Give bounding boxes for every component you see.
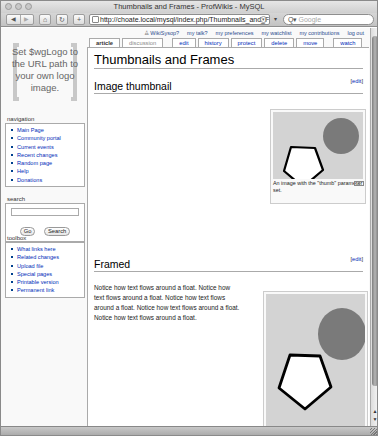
pentagon-shape — [281, 144, 329, 179]
framed-image[interactable] — [266, 294, 365, 426]
personal-link-contributions[interactable]: my contributions — [299, 30, 339, 36]
site-logo[interactable]: Set $wgLogo to the URL path to your own … — [7, 28, 83, 104]
back-icon[interactable]: ◀ — [7, 15, 20, 24]
toolbox-item-what-links-here[interactable]: What links here — [10, 245, 84, 253]
toolbox-heading: toolbox — [5, 235, 85, 241]
chevron-down-icon[interactable]: ▾ — [274, 15, 277, 22]
page-title: Thumbnails and Frames — [94, 52, 363, 69]
personal-link-logout[interactable]: log out — [347, 30, 364, 36]
tab-edit[interactable]: edit — [172, 38, 195, 47]
tab-protect[interactable]: protect — [231, 38, 263, 47]
nav-item-help[interactable]: Help — [10, 167, 84, 175]
toolbox-item-special-pages[interactable]: Special pages — [10, 270, 84, 278]
thumbnail-caption: An image with the "thumb" parameter set. — [273, 179, 363, 194]
logo-text: Set $wgLogo to the URL path to your own … — [7, 46, 83, 94]
content-area: Thumbnails and Frames Image thumbnail [e… — [87, 47, 369, 426]
tab-history[interactable]: history — [198, 38, 229, 47]
reload-icon[interactable]: ↻ — [56, 14, 68, 25]
framed-figure: Some framed centered text — [263, 291, 368, 426]
thumbnail-image[interactable] — [273, 112, 363, 179]
wiki-page: ♙WikiSysop? my talk? my preferences my w… — [1, 28, 370, 426]
wiki-search-input[interactable] — [11, 208, 79, 216]
nav-item-random-page[interactable]: Random page — [10, 159, 84, 167]
user-icon: ♙ — [144, 30, 149, 36]
search-engine-field[interactable]: Q▾Google — [283, 14, 374, 25]
personal-user-link[interactable]: ♙WikiSysop? — [144, 30, 179, 36]
scrollbar-thumb[interactable] — [372, 36, 378, 386]
personal-tools: ♙WikiSysop? my talk? my preferences my w… — [144, 30, 364, 36]
tab-article[interactable]: article — [89, 38, 120, 47]
nav-item-main-page[interactable]: Main Page — [10, 126, 84, 134]
home-icon[interactable]: ⌂ — [39, 14, 51, 25]
scroll-down-icon[interactable]: ▼ — [372, 416, 378, 422]
window-title: Thumbnails and Frames - ProfWikis - MySQ… — [1, 2, 377, 11]
resize-grip-icon[interactable] — [370, 428, 377, 435]
nav-item-community-portal[interactable]: Community portal — [10, 134, 84, 142]
tab-move[interactable]: move — [296, 38, 324, 47]
back-forward-buttons: ◀ ▶ — [6, 14, 34, 25]
add-bookmark-icon[interactable]: + — [73, 14, 85, 25]
vertical-scrollbar[interactable]: ▲ ▼ — [370, 28, 378, 426]
tab-delete[interactable]: delete — [264, 38, 294, 47]
navigation-portlet: navigation Main Page Community portal Cu… — [5, 116, 85, 187]
framed-body-text: Notice how text flows around a float. No… — [94, 283, 242, 323]
url-field[interactable]: http://choate.local/mysql/index.php/Thum… — [89, 14, 270, 25]
tab-discussion[interactable]: discussion — [122, 38, 163, 47]
edit-link[interactable]: edit — [352, 78, 361, 84]
edit-link[interactable]: edit — [352, 256, 361, 262]
browser-window: Thumbnails and Frames - ProfWikis - MySQ… — [0, 0, 378, 436]
edit-section-link: [edit] — [350, 78, 363, 84]
toolbox-portlet: toolbox What links here Related changes … — [5, 235, 85, 298]
section-heading-image-thumbnail: Image thumbnail [edit] — [94, 80, 363, 94]
toolbox-item-related-changes[interactable]: Related changes — [10, 253, 84, 261]
personal-link-preferences[interactable]: my preferences — [216, 30, 254, 36]
pentagon-shape — [276, 352, 338, 412]
search-heading: search — [5, 196, 85, 202]
personal-link-watchlist[interactable]: my watchlist — [261, 30, 291, 36]
toolbox-body: What links here Related changes Upload f… — [5, 242, 85, 298]
forward-icon[interactable]: ▶ — [20, 15, 34, 24]
magnify-icon[interactable] — [354, 181, 361, 186]
url-history-icon[interactable]: ▾ — [260, 16, 267, 23]
status-bar — [1, 426, 378, 436]
navigation-body: Main Page Community portal Current event… — [5, 123, 85, 187]
title-bar: Thumbnails and Frames - ProfWikis - MySQ… — [1, 1, 377, 13]
tab-watch[interactable]: watch — [333, 38, 362, 47]
toolbox-item-printable-version[interactable]: Printable version — [10, 278, 84, 286]
navigation-heading: navigation — [5, 116, 85, 122]
page-tabs: article discussion edit history protect … — [89, 38, 362, 47]
thumbnail-figure: An image with the "thumb" parameter set. — [270, 109, 366, 204]
search-placeholder: Google — [298, 16, 321, 23]
toolbox-item-upload-file[interactable]: Upload file — [10, 262, 84, 270]
nav-item-current-events[interactable]: Current events — [10, 143, 84, 151]
favicon-icon — [92, 16, 99, 23]
toolbox-item-permanent-link[interactable]: Permanent link — [10, 286, 84, 294]
browser-toolbar: ◀ ▶ ⌂ ↻ + http://choate.local/mysql/inde… — [1, 13, 377, 27]
personal-link-talk[interactable]: my talk? — [187, 30, 207, 36]
scroll-up-icon[interactable]: ▲ — [372, 408, 378, 414]
nav-item-donations[interactable]: Donations — [10, 176, 84, 184]
edit-section-link: [edit] — [350, 256, 363, 262]
nav-item-recent-changes[interactable]: Recent changes — [10, 151, 84, 159]
url-text: http://choate.local/mysql/index.php/Thum… — [100, 16, 270, 23]
search-icon[interactable]: Q▾ — [288, 16, 297, 23]
section-heading-framed: Framed [edit] — [94, 258, 363, 272]
